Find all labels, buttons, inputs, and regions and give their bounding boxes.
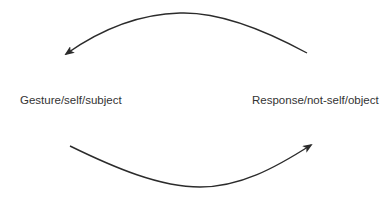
cycle-diagram: Gesture/self/subject Response/not-self/o… xyxy=(0,0,386,198)
node-label-gesture-self-subject: Gesture/self/subject xyxy=(20,95,122,107)
node-label-response-not-self-object: Response/not-self/object xyxy=(252,95,379,107)
top-arrow-response-to-gesture xyxy=(66,13,307,54)
bottom-arrow-gesture-to-response xyxy=(70,145,311,187)
